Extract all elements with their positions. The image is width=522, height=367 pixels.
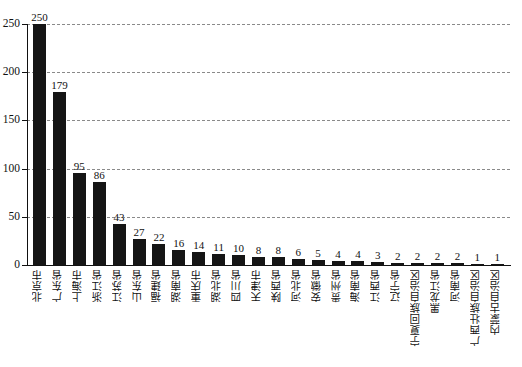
x-axis-category-label: 宁夏回族自治区 [411,269,424,346]
bar-chart: 2501799586432722161411108865443222211 05… [0,0,522,367]
x-axis-category-label: 重庆市 [192,269,205,302]
y-tick-mark [22,120,27,121]
bar-value-label: 16 [173,238,184,249]
x-axis-category-label: 江西省 [371,269,384,302]
x-axis-category-label: 四川省 [232,269,245,302]
x-axis-category-label: 内蒙古自治区 [491,269,504,335]
bar-item: 179 [53,24,66,265]
bar-value-label: 1 [494,252,500,263]
y-tick-label: 100 [3,163,20,175]
y-axis-line [27,24,28,265]
bar [53,92,66,265]
bar-value-label: 2 [435,251,441,262]
bar-value-label: 2 [415,251,421,262]
x-axis-category-label: 山东省 [133,269,146,302]
bar-item: 2 [411,24,424,265]
bar [212,254,225,265]
x-axis-line [27,265,511,266]
bar-item: 2 [451,24,464,265]
bar-item: 10 [232,24,245,265]
y-tick-label: 50 [9,211,21,223]
bar-item: 95 [73,24,86,265]
x-axis-category-label: 福建省 [152,269,165,302]
bar-value-label: 14 [193,240,204,251]
bar-value-label: 27 [134,227,145,238]
bar [252,257,265,265]
bar-item: 22 [152,24,165,265]
x-axis-category-label: 湖南省 [172,269,185,302]
bar-item: 86 [93,24,106,265]
y-tick-mark [22,217,27,218]
bar-value-label: 22 [153,232,164,243]
bar-value-label: 8 [256,245,262,256]
bar [33,24,46,265]
bar [73,173,86,265]
x-axis-category-label: 黑龙江省 [431,269,444,313]
bar-value-label: 6 [295,247,301,258]
bar [133,239,146,265]
y-tick-mark [22,169,27,170]
x-axis-category-label: 安徽省 [312,269,325,302]
bar-value-label: 95 [74,161,85,172]
x-axis-category-label: 河南省 [451,269,464,302]
y-tick-label: 200 [3,66,20,78]
bar-item: 2 [391,24,404,265]
bar-item: 5 [312,24,325,265]
bar-item: 11 [212,24,225,265]
x-axis-category-label: 辽宁省 [391,269,404,302]
bar-value-label: 1 [475,252,481,263]
x-axis-category-label: 海南省 [351,269,364,302]
x-axis-category-label: 北京市 [33,269,46,302]
y-tick-mark [22,24,27,25]
bar-value-label: 2 [455,251,461,262]
bar-item: 4 [332,24,345,265]
bar-value-label: 10 [233,243,244,254]
bar [152,244,165,265]
bar [93,182,106,265]
x-axis-category-label: 上海市 [73,269,86,302]
y-tick-mark [22,265,27,266]
bar-value-label: 3 [375,250,381,261]
x-axis-category-label: 江苏省 [113,269,126,302]
y-tick-label: 150 [3,115,20,127]
bar-value-label: 8 [276,245,282,256]
bar-item: 3 [371,24,384,265]
x-axis-category-label: 广西壮族自治区 [471,269,484,346]
bar [232,255,245,265]
y-tick-label: 0 [14,259,20,271]
bar-value-label: 179 [51,80,68,91]
x-axis-category-label: 广东省 [53,269,66,302]
bar [272,257,285,265]
bar-value-label: 2 [395,251,401,262]
bar-value-label: 86 [94,170,105,181]
bar-value-label: 250 [31,12,48,23]
x-axis-category-label: 天津市 [252,269,265,302]
bar-item: 43 [113,24,126,265]
x-axis-category-label: 浙江省 [93,269,106,302]
bar-item: 8 [252,24,265,265]
y-tick-mark [22,72,27,73]
bar-item: 4 [351,24,364,265]
bar [192,252,205,265]
x-axis-category-label: 河北省 [292,269,305,302]
x-axis-category-label: 陕西省 [272,269,285,302]
y-tick-label: 250 [3,18,20,30]
plot-area: 2501799586432722161411108865443222211 [27,24,510,265]
x-axis-category-label: 贵州省 [332,269,345,302]
bar-item: 1 [491,24,504,265]
bar [113,224,126,265]
bar-item: 16 [172,24,185,265]
bar-item: 6 [292,24,305,265]
bar [172,250,185,265]
bar-value-label: 5 [315,248,321,259]
bar-item: 1 [471,24,484,265]
x-axis-category-label: 湖北省 [212,269,225,302]
bar-item: 250 [33,24,46,265]
bar-value-label: 4 [355,249,361,260]
bar-value-label: 43 [114,212,125,223]
bar-value-label: 4 [335,249,341,260]
bar-value-label: 11 [213,242,224,253]
bar-item: 2 [431,24,444,265]
bar-item: 27 [133,24,146,265]
bar-item: 14 [192,24,205,265]
